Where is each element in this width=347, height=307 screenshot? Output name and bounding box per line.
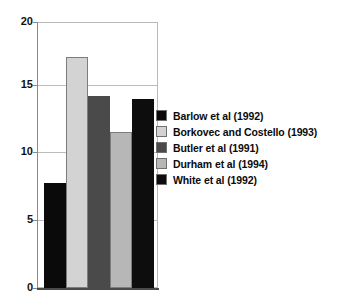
- chart-legend: Barlow et al (1992) Borkovec and Costell…: [156, 108, 347, 188]
- bar-series: [38, 22, 157, 288]
- legend-label-white: White et al (1992): [173, 174, 257, 186]
- bar-butler: [88, 96, 110, 288]
- y-tick-label-5: 5: [3, 214, 33, 225]
- y-tick-label-15: 15: [3, 79, 33, 90]
- y-tick-label-20: 20: [3, 16, 33, 27]
- legend-label-borkovec: Borkovec and Costello (1993): [173, 126, 317, 138]
- legend-item-borkovec: Borkovec and Costello (1993): [156, 124, 347, 139]
- bar-white: [132, 99, 154, 288]
- legend-label-butler: Butler et al (1991): [173, 142, 259, 154]
- bar-durham: [110, 132, 132, 288]
- legend-item-white: White et al (1992): [156, 172, 347, 187]
- legend-item-durham: Durham et al (1994): [156, 156, 347, 171]
- y-tick-label-10: 10: [3, 146, 33, 157]
- legend-item-barlow: Barlow et al (1992): [156, 108, 347, 123]
- y-tick-label-0: 0: [3, 282, 33, 293]
- legend-swatch-durham: [156, 158, 167, 169]
- legend-swatch-white: [156, 174, 167, 185]
- bar-borkovec: [66, 57, 88, 288]
- legend-label-durham: Durham et al (1994): [173, 158, 268, 170]
- legend-item-butler: Butler et al (1991): [156, 140, 347, 155]
- bar-chart-figure: 20 15 10 5 0 Barlow et al (1992) Bork: [0, 0, 347, 307]
- bar-barlow: [44, 183, 66, 288]
- legend-label-barlow: Barlow et al (1992): [173, 110, 263, 122]
- legend-swatch-barlow: [156, 110, 167, 121]
- legend-swatch-butler: [156, 142, 167, 153]
- y-axis-tick-labels: 20 15 10 5 0: [0, 0, 33, 307]
- legend-swatch-borkovec: [156, 126, 167, 137]
- x-axis-line: [37, 288, 159, 290]
